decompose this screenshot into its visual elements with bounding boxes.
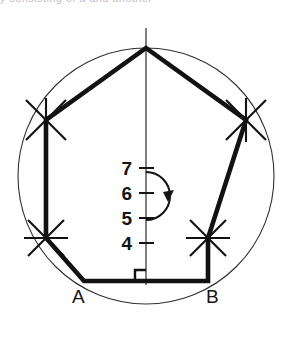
arc-mark-upper-left [26,98,66,142]
division-label-4: 4 [121,233,132,254]
division-label-7: 7 [121,158,132,179]
figure-page: y consisting of a and another [0,0,293,338]
division-label-5: 5 [121,208,132,229]
vertex-label-a: A [72,286,85,307]
heptagon-construction-figure: 7 6 5 4 A B [0,0,293,338]
division-label-6: 6 [121,183,132,204]
arc-mark-upper-right [226,98,266,142]
arrow-head [163,190,174,202]
clockwise-rotation-arrow [146,172,174,220]
vertex-label-b: B [206,286,219,307]
